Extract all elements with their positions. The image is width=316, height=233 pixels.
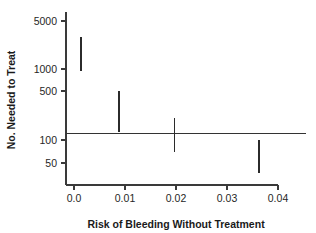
x-axis-tick-labels: 0.0 0.01 0.02 0.03 0.04 [67,192,289,204]
x-tick-label: 0.04 [268,192,289,204]
x-tick-label: 0.03 [217,192,238,204]
y-tick-label: 1000 [34,63,58,75]
data-layer [66,37,306,173]
y-tick-label: 50 [45,157,57,169]
x-tick-label: 0.02 [166,192,187,204]
x-axis-ticks [74,185,278,190]
y-tick-label: 5000 [34,15,58,27]
chart-figure: No. Needed to Treat Risk of Bleeding Wit… [0,0,316,233]
y-tick-label: 100 [39,134,57,146]
x-axis-title: Risk of Bleeding Without Treatment [87,218,265,230]
y-axis-title: No. Needed to Treat [5,50,17,149]
x-tick-label: 0.01 [115,192,136,204]
y-axis-ticks [61,21,66,163]
y-axis-tick-labels: 5000 1000 500 100 50 [34,15,58,169]
y-tick-label: 500 [39,85,57,97]
nnt-vs-bleeding-risk-chart: No. Needed to Treat Risk of Bleeding Wit… [0,0,316,233]
x-tick-label: 0.0 [67,192,82,204]
